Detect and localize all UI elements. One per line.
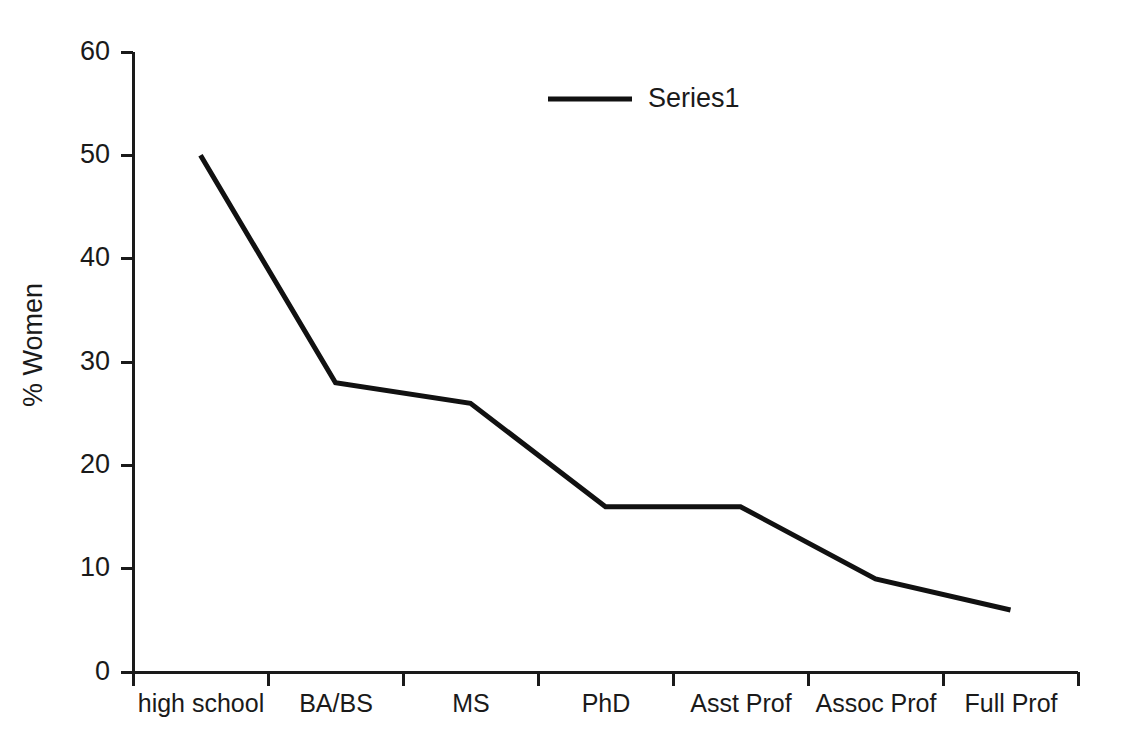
- line-chart: 60 50 40 30 20 10 0 % Women high school …: [0, 0, 1135, 751]
- x-category-label-full-prof: Full Prof: [964, 689, 1057, 717]
- y-tick-label-10: 10: [80, 552, 110, 582]
- x-category-label-ms: MS: [452, 689, 490, 717]
- x-category-label-high-school: high school: [138, 689, 264, 717]
- y-tick-label-50: 50: [80, 139, 110, 169]
- x-category-label-ba-bs: BA/BS: [299, 689, 373, 717]
- chart-canvas: 60 50 40 30 20 10 0 % Women high school …: [0, 0, 1135, 751]
- y-tick-label-30: 30: [80, 346, 110, 376]
- x-category-label-asst-prof: Asst Prof: [690, 689, 791, 717]
- chart-background: [0, 0, 1135, 751]
- y-tick-label-40: 40: [80, 242, 110, 272]
- y-tick-label-60: 60: [80, 36, 110, 66]
- y-axis-title: % Women: [18, 283, 48, 407]
- x-category-label-phd: PhD: [582, 689, 631, 717]
- y-tick-label-0: 0: [95, 656, 110, 686]
- legend-label-series1: Series1: [648, 83, 740, 113]
- y-tick-label-20: 20: [80, 449, 110, 479]
- x-category-label-assoc-prof: Assoc Prof: [816, 689, 937, 717]
